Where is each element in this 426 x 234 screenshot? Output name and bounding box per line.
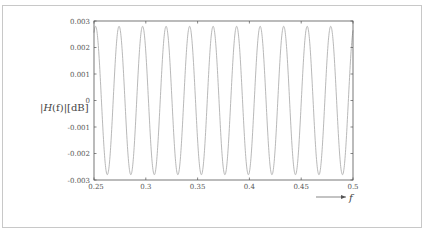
plot-area-border	[94, 21, 353, 180]
y-tick-label: -0.003	[68, 177, 90, 185]
x-axis-label: f	[348, 192, 355, 203]
line-chart: 0.0030.0020.0010-0.001-0.002-0.0030.250.…	[0, 0, 426, 234]
y-tick-label: 0.001	[70, 71, 90, 79]
y-tick-label: 0.002	[70, 44, 90, 52]
x-tick-label: 0.45	[293, 183, 309, 191]
y-tick-label: -0.002	[68, 150, 90, 158]
x-tick-label: 0.3	[140, 183, 151, 191]
ripple-curve	[94, 26, 353, 174]
y-tick-label: 0.003	[70, 18, 90, 26]
x-tick-label: 0.4	[244, 183, 256, 191]
x-tick-label: 0.25	[88, 183, 104, 191]
y-tick-label: 0	[86, 97, 90, 105]
y-tick-label: -0.001	[68, 124, 90, 132]
arrowhead-icon	[341, 195, 346, 199]
x-tick-label: 0.5	[347, 183, 358, 191]
x-tick-label: 0.35	[190, 183, 206, 191]
